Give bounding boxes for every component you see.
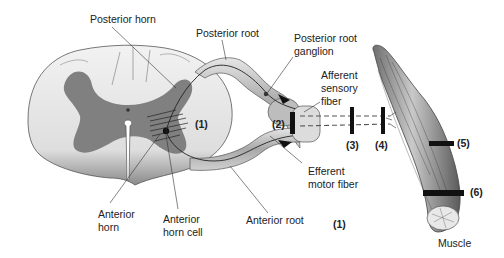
label-anterior-horn-cell-line2: horn cell [163, 226, 203, 238]
label-anterior-horn-cell-line1: Anterior [163, 213, 200, 225]
label-afferent-line3: fiber [321, 95, 341, 107]
label-posterior-root-ganglion-line1: Posterior root [294, 32, 357, 44]
label-anterior-horn-line2: horn [98, 221, 119, 233]
label-efferent-line2: motor fiber [308, 178, 358, 190]
label-efferent-line1: Efferent [308, 165, 345, 177]
label-afferent-line1: Afferent [321, 69, 358, 81]
site-3: (3) [346, 139, 359, 151]
label-posterior-root-ganglion-line2: ganglion [294, 45, 334, 57]
label-anterior-root: Anterior root [246, 214, 304, 226]
site-6: (6) [470, 186, 483, 198]
label-afferent-line2: sensory [321, 82, 358, 94]
site-1-cord: (1) [195, 118, 208, 130]
label-posterior-root: Posterior root [196, 27, 259, 39]
site-2: (2) [272, 118, 285, 130]
site-1-label: (1) [333, 218, 346, 230]
label-posterior-horn: Posterior horn [90, 13, 156, 25]
label-muscle: Muscle [438, 237, 471, 249]
label-anterior-horn-line1: Anterior [98, 208, 135, 220]
spinal-cord-diagram: Posterior horn Posterior root Posterior … [0, 0, 504, 258]
site-5: (5) [457, 137, 470, 149]
site-4: (4) [375, 139, 388, 151]
